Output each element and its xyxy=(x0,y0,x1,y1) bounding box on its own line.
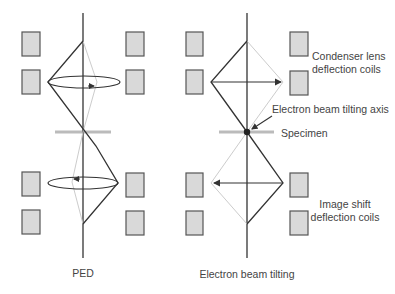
ped-coil-upper-right-1 xyxy=(126,32,144,56)
image-shift-label-line1: Image shift xyxy=(305,198,385,211)
tilt-coil-lower-right-1 xyxy=(290,173,308,197)
ped-caption: PED xyxy=(53,267,113,280)
tilt-coil-lower-left-2 xyxy=(186,211,203,235)
ped-coil-upper-left-2 xyxy=(22,70,40,94)
ped-coil-upper-left-1 xyxy=(22,32,40,56)
specimen-label: Specimen xyxy=(281,127,328,140)
condenser-label-line2: deflection coils xyxy=(312,63,381,76)
tilt-coil-upper-right-1 xyxy=(290,32,308,56)
ped-panel xyxy=(22,13,144,258)
tilting-caption: Electron beam tilting xyxy=(187,268,307,281)
tilt-coil-upper-left-2 xyxy=(186,70,203,94)
ped-coil-lower-left-2 xyxy=(22,210,40,234)
condenser-label-line1: Condenser lens xyxy=(312,50,386,63)
tilt-coil-upper-left-1 xyxy=(186,32,203,56)
ped-upper-rotation-ellipse xyxy=(48,76,120,88)
tilt-coil-lower-left-1 xyxy=(186,173,203,197)
image-shift-label-line2: deflection coils xyxy=(305,211,385,224)
tilt-coil-upper-right-2 xyxy=(290,71,308,95)
diagram-canvas xyxy=(0,0,395,294)
tilting-axis-label: Electron beam tilting axis xyxy=(272,103,389,116)
ped-coil-lower-left-1 xyxy=(22,172,40,196)
tilt-pivot-point xyxy=(244,129,250,135)
tilting-axis-pointer-arrow-icon xyxy=(252,116,272,129)
ped-coil-upper-right-2 xyxy=(126,70,144,94)
ped-coil-lower-right-2 xyxy=(126,211,144,235)
ped-coil-lower-right-1 xyxy=(126,173,144,197)
